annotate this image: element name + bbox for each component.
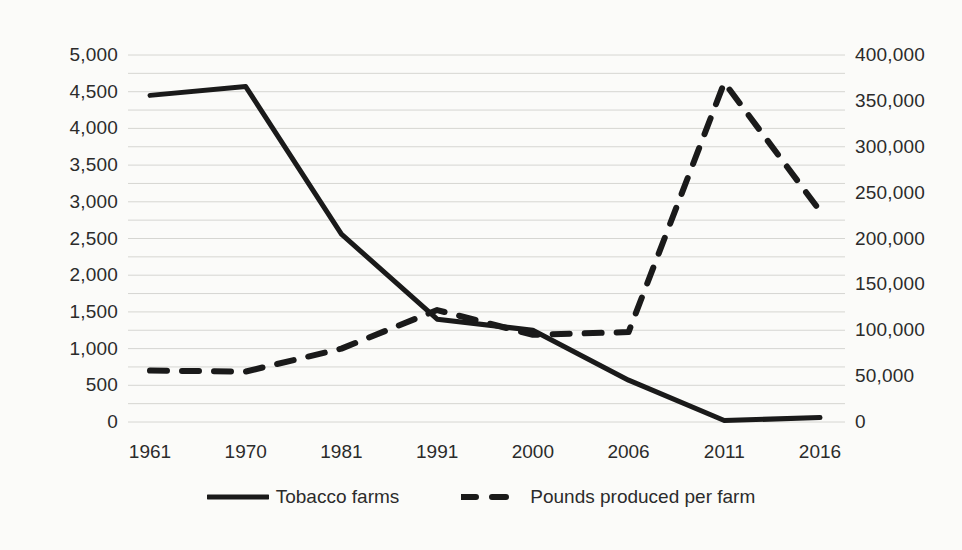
plot-area: [0, 0, 962, 550]
chart-container: 05001,0001,5002,0002,5003,0003,5004,0004…: [0, 0, 962, 550]
legend-item-label: Tobacco farms: [276, 487, 400, 506]
legend-solid-line-icon: [207, 490, 269, 504]
legend-item[interactable]: Tobacco farms: [207, 487, 400, 506]
legend-item[interactable]: Pounds produced per farm: [461, 487, 755, 506]
gridlines: [128, 55, 845, 422]
data-series-layer: [150, 83, 820, 421]
chart-legend: Tobacco farmsPounds produced per farm: [0, 487, 962, 506]
series-line-pounds-produced-per-farm: [150, 83, 820, 372]
legend-dashed-line-icon: [461, 490, 523, 504]
legend-item-label: Pounds produced per farm: [530, 487, 755, 506]
